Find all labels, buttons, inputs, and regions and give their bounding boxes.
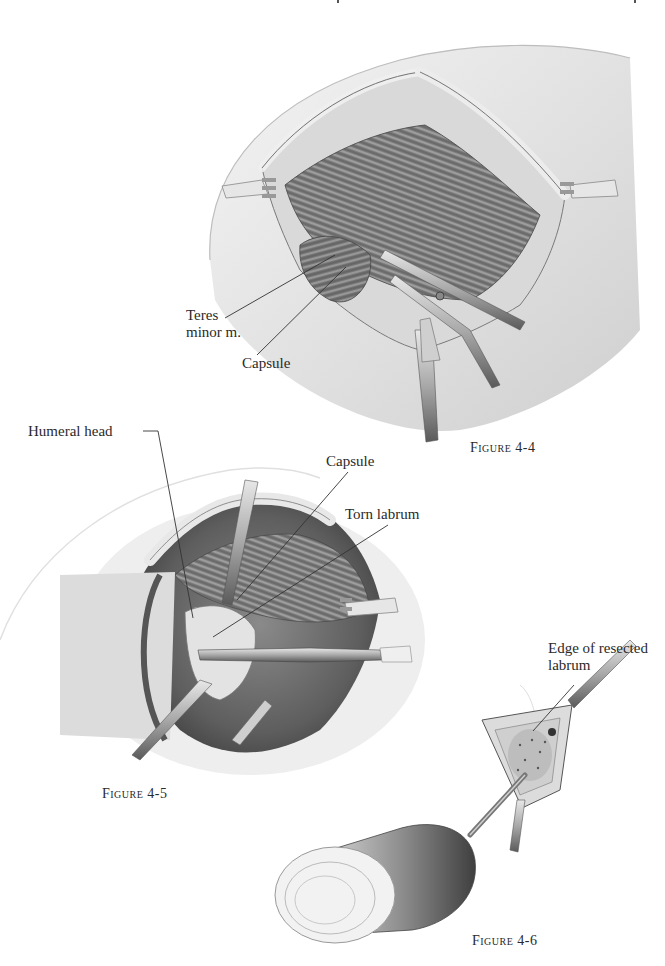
- label-edge-line1: Edge of resected: [548, 640, 648, 656]
- caption-figure-4-5: Figure 4-5: [102, 786, 168, 802]
- label-humeral-head: Humeral head: [28, 423, 113, 440]
- label-edge-line2: labrum: [548, 657, 591, 673]
- label-teres-line1: Teres: [186, 307, 218, 323]
- caption-figure-4-4: Figure 4-4: [470, 440, 536, 456]
- caption-figure-4-6: Figure 4-6: [472, 933, 538, 949]
- label-teres-minor: Teres minor m.: [186, 307, 241, 341]
- label-torn-labrum: Torn labrum: [345, 506, 419, 523]
- label-teres-line2: minor m.: [186, 324, 241, 340]
- label-capsule-fig5: Capsule: [326, 453, 374, 470]
- surgical-illustrations: [0, 0, 665, 966]
- label-capsule-fig4: Capsule: [242, 355, 290, 372]
- textbook-page: Teres minor m. Capsule Figure 4-4 Humera…: [0, 0, 665, 966]
- figure-4-5-illustration: [0, 431, 425, 775]
- label-edge-resected-labrum: Edge of resected labrum: [548, 640, 648, 674]
- figure-4-4-illustration: [210, 45, 640, 442]
